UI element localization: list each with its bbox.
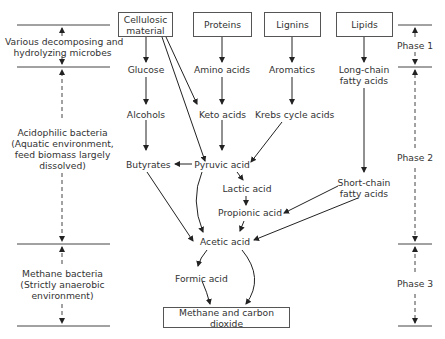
label-phase-1: Phase 1 [392,40,438,51]
long-chain-line2: fatty acids [330,75,398,86]
label-hydrolyzing-microbes: Various decomposing and hydrolyzing micr… [5,36,120,58]
node-formic-acid: Formic acid [175,273,227,284]
node-pyruvic-acid: Pyruvic acid [193,159,251,170]
short-chain-line1: Short-chain [330,177,398,188]
node-long-chain-fatty-acids: Long-chain fatty acids [330,64,398,86]
lignins-label: Lignins [276,19,309,30]
methane-line3: environment) [10,290,115,301]
node-propionic-acid: Propionic acid [218,207,282,218]
acido-line1: Acidophilic bacteria [10,127,115,138]
microbes-line1: Various decomposing and [5,36,120,47]
node-glucose: Glucose [126,64,166,75]
label-phase-3: Phase 3 [392,278,438,289]
source-box-lignins: Lignins [264,12,321,37]
lipids-label: Lipids [351,19,378,30]
label-acidophilic-bacteria: Acidophilic bacteria (Aquatic environmen… [10,127,115,171]
node-butyrates: Butyrates [126,159,168,170]
acido-line2: (Aquatic environment, [10,138,115,149]
node-keto-acids: Keto acids [195,109,250,120]
label-methane-bacteria: Methane bacteria (Strictly anaerobic env… [10,268,115,301]
node-krebs-cycle-acids: Krebs cycle acids [255,109,330,120]
methane-line1: Methane bacteria [10,268,115,279]
acido-line3: feed biomass largely [10,149,115,160]
node-amino-acids: Amino acids [192,64,252,75]
product-box-methane-co2: Methane and carbon dioxide [163,307,290,328]
node-short-chain-fatty-acids: Short-chain fatty acids [330,177,398,199]
cellulosic-label-2: material [126,25,164,36]
cellulosic-label-1: Cellulosic [124,14,168,25]
label-phase-2: Phase 2 [392,152,438,163]
source-box-proteins: Proteins [193,12,252,37]
proteins-label: Proteins [204,19,241,30]
node-aromatics: Aromatics [262,64,322,75]
microbes-line2: hydrolyzing microbes [5,47,120,58]
long-chain-line1: Long-chain [330,64,398,75]
node-alcohols: Alcohols [126,109,166,120]
short-chain-line2: fatty acids [330,188,398,199]
product-label: Methane and carbon dioxide [164,307,289,329]
source-box-cellulosic: Cellulosic material [118,12,173,37]
node-lactic-acid: Lactic acid [222,183,272,194]
source-box-lipids: Lipids [336,12,393,37]
methane-line2: (Strictly anaerobic [10,279,115,290]
acido-line4: dissolved) [10,160,115,171]
node-acetic-acid: Acetic acid [200,236,250,247]
